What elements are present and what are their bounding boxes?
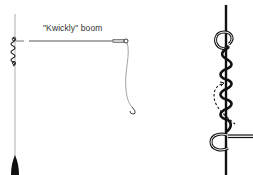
left-rig-illustration [11, 14, 135, 175]
hook-line [126, 42, 132, 107]
hook-icon [130, 107, 135, 114]
sinker-icon [11, 155, 19, 175]
knot-closeup-illustration [211, 5, 253, 175]
boom-label: "Kwickly" boom [43, 23, 102, 33]
diagram-canvas [0, 0, 253, 175]
boom-sleeve [113, 40, 124, 43]
knot-wraps [221, 47, 232, 132]
